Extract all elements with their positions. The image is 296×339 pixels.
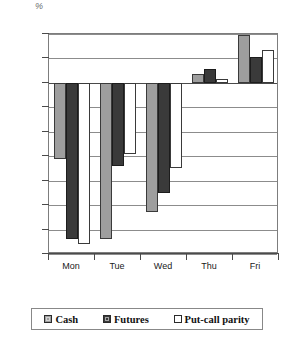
y-tick-mark [42,106,49,107]
bar [112,83,124,166]
y-tick-mark [42,155,49,156]
legend-swatch-icon [174,315,182,323]
x-tick-label: Fri [250,261,261,271]
x-tick-mark [278,254,279,260]
bar [78,83,90,244]
y-tick-mark [42,229,49,230]
bar [66,83,78,239]
y-tick-mark [42,33,49,34]
legend-swatch-icon [103,315,111,323]
x-tick-mark [48,254,49,260]
bar [192,74,204,83]
bar [158,83,170,193]
y-tick-mark [42,82,49,83]
x-tick-label: Thu [201,261,217,271]
bar-chart-figure: % 0.10.050-0.05-0.1-0.15-0.2-0.25-0.3-0.… [0,0,296,339]
bar [262,50,274,83]
y-tick-mark [42,180,49,181]
bar [216,79,228,83]
plot-area [48,33,278,253]
legend-item: Cash [44,314,78,325]
x-tick-mark [232,254,233,260]
x-tick-mark [140,254,141,260]
x-tick-mark [94,254,95,260]
legend-label: Cash [55,314,78,325]
bar [170,83,182,169]
legend-item: Put-call parity [174,314,250,325]
legend-label: Put-call parity [185,314,250,325]
x-axis-line [48,253,279,254]
bar [54,83,66,159]
chart-legend: CashFuturesPut-call parity [31,308,263,330]
x-tick-label: Tue [109,261,124,271]
bar [204,69,216,83]
y-tick-mark [42,57,49,58]
x-tick-mark [186,254,187,260]
x-tick-label: Mon [62,261,80,271]
y-tick-mark [42,204,49,205]
bar [124,83,136,154]
legend-swatch-icon [44,315,52,323]
y-axis-title: % [35,1,43,11]
bar [100,83,112,239]
x-tick-label: Wed [154,261,172,271]
y-tick-mark [42,131,49,132]
bar [250,57,262,83]
bar [146,83,158,213]
gridline [49,254,277,255]
bar [238,35,250,83]
legend-item: Futures [103,314,149,325]
legend-label: Futures [114,314,149,325]
